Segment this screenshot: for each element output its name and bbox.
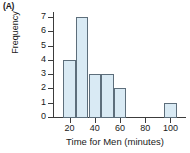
y-tick-label: 6 (32, 26, 46, 35)
y-tick-label: 4 (32, 55, 46, 64)
histogram-bar (101, 74, 114, 118)
y-tick-label: 7 (32, 12, 46, 21)
y-tick-mark (48, 74, 53, 75)
y-tick-mark (48, 17, 53, 18)
x-tick-label: 20 (57, 124, 83, 133)
y-tick-label: 1 (32, 98, 46, 107)
x-tick-label: 100 (157, 124, 183, 133)
y-tick-label: 2 (32, 83, 46, 92)
y-tick-mark (48, 117, 53, 118)
histogram-figure: (A) Frequency 01234567 20406080100 Time … (0, 0, 190, 153)
y-tick-mark (48, 46, 53, 47)
histogram-bar (114, 88, 127, 118)
y-tick-label: 5 (32, 41, 46, 50)
histogram-bar (63, 60, 76, 118)
y-tick-label: 0 (32, 112, 46, 121)
histogram-bar (89, 74, 102, 118)
y-tick-mark (48, 88, 53, 89)
y-tick-mark (48, 60, 53, 61)
x-tick-label: 80 (132, 124, 158, 133)
y-tick-mark (48, 103, 53, 104)
histogram-bar (76, 17, 89, 118)
y-tick-label: 3 (32, 69, 46, 78)
histogram-bar (164, 103, 177, 118)
y-axis-line (53, 12, 54, 118)
x-tick-label: 40 (82, 124, 108, 133)
plot-area: 01234567 20406080100 (0, 0, 190, 153)
y-tick-mark (48, 31, 53, 32)
x-tick-label: 60 (107, 124, 133, 133)
x-axis-title: Time for Men (minutes) (40, 137, 190, 147)
